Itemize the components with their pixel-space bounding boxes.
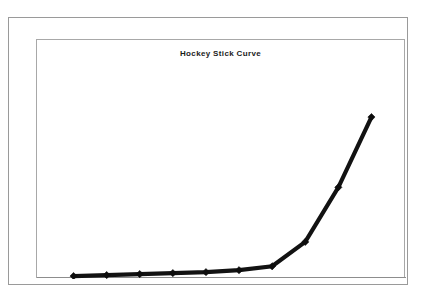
marker-group: [70, 114, 375, 280]
series-line-hockey-stick: [74, 117, 372, 276]
data-point-marker: [235, 267, 242, 274]
data-point-marker: [202, 269, 209, 276]
chart-plot-box: Hockey Stick Curve: [36, 39, 405, 278]
data-point-marker: [169, 270, 176, 277]
line-chart-plot: [37, 40, 406, 279]
series-group: [74, 117, 372, 276]
data-point-marker: [136, 270, 143, 277]
page-frame: Hockey Stick Curve: [8, 17, 408, 285]
